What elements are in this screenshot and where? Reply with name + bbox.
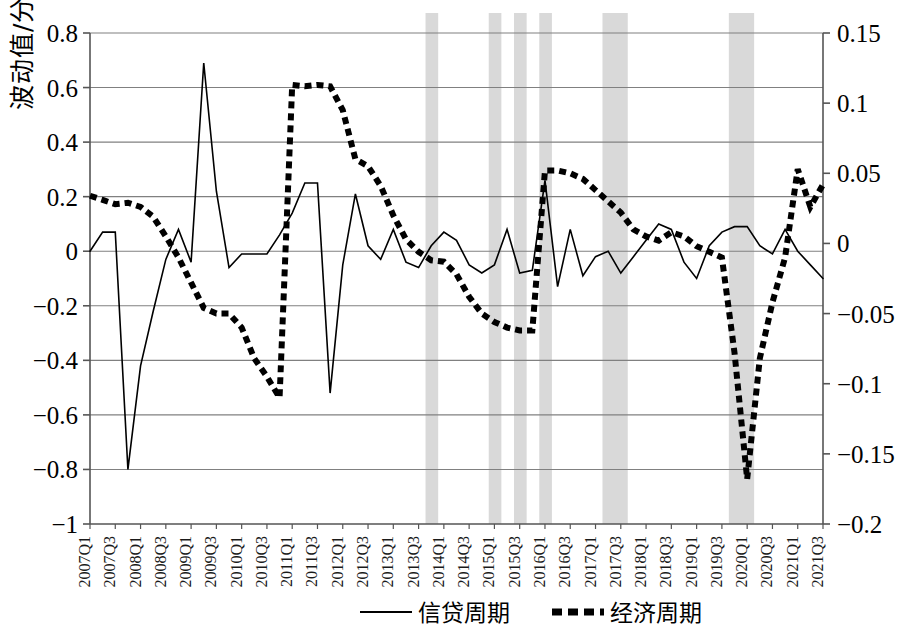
x-tick-label: 2007Q1 [76,536,93,588]
x-tick-label: 2011Q3 [303,536,320,587]
x-tick-label: 2015Q1 [480,536,497,588]
y-tick-label-left: −1 [51,511,78,538]
legend-label: 信贷周期 [418,600,510,626]
y-tick-label-left: 0 [66,238,79,265]
x-tick-label: 2020Q1 [733,536,750,588]
x-tick-label: 2019Q1 [683,536,700,588]
recession-band [514,13,527,524]
x-tick-label: 2017Q3 [607,536,624,588]
y-tick-label-left: −0.4 [33,347,79,374]
x-tick-label: 2009Q1 [177,536,194,588]
x-tick-label: 2010Q1 [228,536,245,588]
y-tick-label-right: −0.1 [837,371,882,398]
y-tick-label-left: −0.8 [33,456,78,483]
recession-band [539,13,552,524]
x-axis-ticks: 2007Q12007Q32008Q12008Q32009Q12009Q32010… [76,524,826,588]
data-series [90,63,823,479]
x-tick-label: 2013Q3 [405,536,422,588]
chart-container: 波动值/分 0.80.60.40.20−0.2−0.4−0.6−0.8−1 0.… [0,0,903,639]
series-line [90,85,823,479]
x-tick-label: 2008Q1 [127,536,144,588]
series-line [90,63,823,469]
x-tick-label: 2010Q3 [253,536,270,588]
x-tick-label: 2021Q1 [784,536,801,588]
x-tick-label: 2009Q3 [202,536,219,588]
y-tick-label-right: −0.15 [837,441,895,468]
y-tick-label-left: 0.4 [47,129,79,156]
recession-band [426,13,439,524]
x-tick-label: 2014Q1 [430,536,447,588]
y-tick-label-right: 0 [837,230,850,257]
y-tick-label-right: −0.2 [837,511,882,538]
x-tick-label: 2018Q3 [657,536,674,588]
legend-label: 经济周期 [610,600,702,626]
y-tick-label-left: −0.2 [33,293,78,320]
x-tick-label: 2020Q3 [758,536,775,588]
y-tick-label-right: 0.05 [837,160,881,187]
x-tick-label: 2017Q1 [582,536,599,588]
y-tick-label-right: 0.1 [837,90,868,117]
y-tick-label-left: 0.6 [47,75,78,102]
x-tick-label: 2008Q3 [152,536,169,588]
x-tick-label: 2012Q1 [329,536,346,588]
x-tick-label: 2011Q1 [278,536,295,587]
y-tick-label-left: 0.2 [47,184,78,211]
x-tick-label: 2016Q1 [531,536,548,588]
x-tick-label: 2016Q3 [556,536,573,588]
x-tick-label: 2021Q3 [809,536,826,588]
y-axis-left-ticks: 0.80.60.40.20−0.2−0.4−0.6−0.8−1 [33,20,90,538]
y-tick-label-left: −0.6 [33,402,78,429]
x-tick-label: 2014Q3 [455,536,472,588]
x-tick-label: 2012Q3 [354,536,371,588]
y-axis-right-ticks: 0.150.10.050−0.05−0.1−0.15−0.2 [823,20,895,538]
line-chart: 0.80.60.40.20−0.2−0.4−0.6−0.8−1 0.150.10… [0,0,903,639]
x-tick-label: 2018Q1 [632,536,649,588]
recession-band [489,13,502,524]
y-tick-label-right: 0.15 [837,20,881,47]
x-tick-label: 2015Q3 [506,536,523,588]
chart-legend: 信贷周期经济周期 [360,600,702,626]
y-tick-label-left: 0.8 [47,20,78,47]
y-tick-label-right: −0.05 [837,301,895,328]
x-tick-label: 2007Q3 [101,536,118,588]
x-tick-label: 2019Q3 [708,536,725,588]
x-tick-label: 2013Q1 [379,536,396,588]
